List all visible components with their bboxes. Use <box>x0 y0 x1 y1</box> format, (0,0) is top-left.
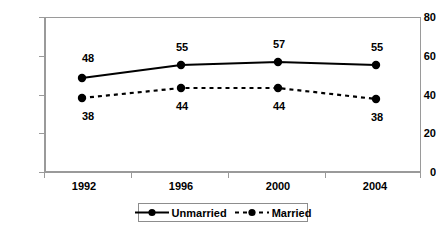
y-tick-mark-20 <box>39 133 44 134</box>
data-label-married-2004: 38 <box>371 111 383 123</box>
y-axis-line <box>44 17 46 173</box>
data-label-unmarried-2000: 57 <box>273 38 285 50</box>
x-tick-mark-end <box>420 173 421 178</box>
line-chart: 80 60 40 20 0 1992 1996 2000 2004 48 55 … <box>0 0 436 229</box>
data-label-unmarried-1992: 48 <box>82 52 94 64</box>
chart-legend: Unmarried Married <box>138 203 308 222</box>
data-label-married-1996: 44 <box>176 100 188 112</box>
y-tick-label-20: 20 <box>410 128 436 139</box>
y-tick-mark-60 <box>39 56 44 57</box>
data-label-married-2000: 44 <box>273 100 285 112</box>
y-tick-mark-80 <box>39 17 44 18</box>
legend-label-married: Married <box>272 207 312 219</box>
x-tick-label-2000: 2000 <box>266 180 290 192</box>
data-label-married-1992: 38 <box>82 110 94 122</box>
data-label-unmarried-2004: 55 <box>371 41 383 53</box>
x-tick-mark-3 <box>325 173 326 178</box>
y-tick-label-40: 40 <box>410 90 436 101</box>
legend-entry-unmarried[interactable]: Unmarried <box>135 207 227 219</box>
legend-swatch-solid-icon <box>135 208 169 217</box>
plot-area <box>44 17 421 172</box>
x-tick-label-1992: 1992 <box>72 180 96 192</box>
x-tick-mark-2 <box>228 173 229 178</box>
y-tick-label-80: 80 <box>410 12 436 23</box>
x-tick-mark-1 <box>131 173 132 178</box>
data-label-unmarried-1996: 55 <box>176 41 188 53</box>
x-tick-label-1996: 1996 <box>169 180 193 192</box>
legend-swatch-dashed-icon <box>235 208 269 217</box>
y-tick-mark-40 <box>39 95 44 96</box>
legend-entry-married[interactable]: Married <box>235 207 312 219</box>
x-tick-mark-start <box>44 173 45 178</box>
x-axis-line <box>44 171 421 173</box>
y-tick-label-60: 60 <box>410 51 436 62</box>
x-tick-label-2004: 2004 <box>363 180 387 192</box>
legend-label-unmarried: Unmarried <box>172 207 227 219</box>
